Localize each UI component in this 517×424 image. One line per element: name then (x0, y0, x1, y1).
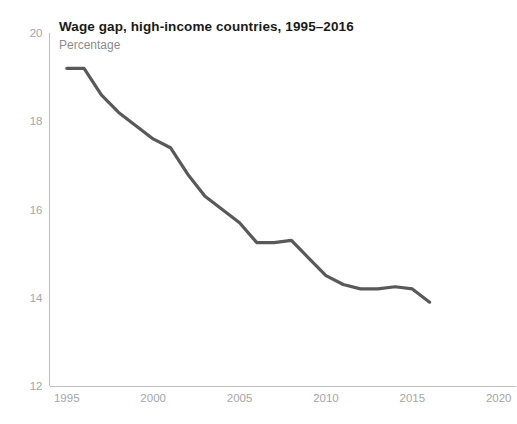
y-axis-tick-label: 20 (30, 27, 43, 39)
y-axis-tick-label: 18 (30, 115, 43, 127)
x-axis-tick-label: 2005 (227, 392, 253, 404)
chart-container: 1214161820 199520002005201020152020 Wage… (0, 0, 517, 424)
x-axis-tick-label: 2020 (486, 392, 512, 404)
x-axis-tick-label: 2000 (140, 392, 166, 404)
chart-plot-area: 1214161820 199520002005201020152020 (0, 0, 517, 424)
y-axis: 1214161820 (30, 27, 50, 392)
data-series-group (67, 68, 430, 302)
x-axis-tick-label: 2010 (313, 392, 339, 404)
y-axis-tick-label: 12 (30, 380, 43, 392)
x-axis: 199520002005201020152020 (50, 386, 517, 404)
y-axis-tick-label: 16 (30, 204, 43, 216)
series-line (67, 68, 430, 302)
y-axis-tick-label: 14 (30, 292, 43, 304)
x-axis-tick-label: 1995 (54, 392, 80, 404)
x-axis-tick-label: 2015 (400, 392, 426, 404)
